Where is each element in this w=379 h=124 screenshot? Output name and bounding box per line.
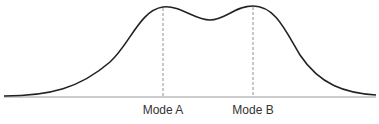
bimodal-distribution-diagram [0, 0, 379, 124]
distribution-curve [4, 6, 376, 96]
mode-a-label: Mode A [143, 103, 184, 117]
mode-b-label: Mode B [232, 103, 273, 117]
